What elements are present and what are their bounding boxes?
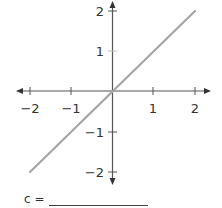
answer-blank[interactable] <box>49 193 148 206</box>
x-tick-label: 1 <box>149 101 157 116</box>
x-tick-label: 2 <box>191 101 199 116</box>
coordinate-graph: −2 −1 1 2 2 1 −1 −2 <box>0 0 222 208</box>
x-tick-label: −1 <box>61 101 80 116</box>
y-axis-down-arrow-icon <box>110 178 116 185</box>
y-tick-label: −1 <box>85 125 104 140</box>
x-axis-left-arrow-icon <box>16 88 23 94</box>
y-axis-up-arrow-icon <box>110 1 116 8</box>
x-axis-right-arrow-icon <box>204 88 211 94</box>
answer-field: c = <box>24 192 148 206</box>
answer-label: c = <box>24 192 44 206</box>
y-tick-label: 1 <box>96 44 104 59</box>
x-tick-label: −2 <box>20 101 39 116</box>
y-tick-label: −2 <box>85 165 104 180</box>
y-tick-label: 2 <box>96 4 104 19</box>
